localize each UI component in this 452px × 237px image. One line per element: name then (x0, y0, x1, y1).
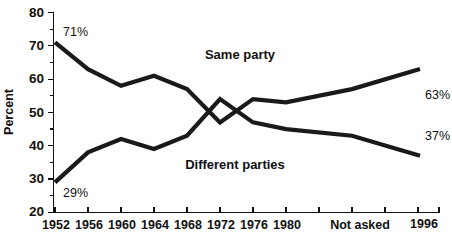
y-label-40: 40 (29, 138, 44, 153)
x-label-1980: 1980 (273, 218, 301, 232)
y-tick-labels-group: 80 70 60 50 40 30 20 (29, 5, 44, 220)
x-label-1960: 1960 (108, 218, 136, 232)
x-label-1976: 1976 (240, 218, 268, 232)
x-tick-marks-group (55, 207, 439, 213)
series-label-same-party: Same party (205, 47, 276, 62)
x-label-1968: 1968 (174, 218, 202, 232)
y-label-70: 70 (29, 38, 44, 53)
y-label-80: 80 (29, 5, 44, 20)
y-axis-title: Percent (2, 88, 16, 135)
y-label-20: 20 (29, 204, 44, 219)
x-label-not-asked: Not asked (330, 218, 390, 232)
y-label-30: 30 (29, 171, 44, 186)
line-chart: 80 70 60 50 40 30 20 Percent 1952 1956 1… (0, 0, 452, 237)
y-tick-marks-group (48, 13, 54, 213)
axes-group (54, 12, 441, 213)
annotation-37-percent: 37% (425, 129, 450, 143)
x-label-1952: 1952 (42, 218, 70, 232)
annotation-71-percent: 71% (63, 25, 88, 39)
series-label-different-parties: Different parties (185, 157, 285, 172)
y-label-50: 50 (29, 105, 44, 120)
chart-container: 80 70 60 50 40 30 20 Percent 1952 1956 1… (0, 0, 452, 237)
x-label-1972: 1972 (207, 218, 235, 232)
x-label-1964: 1964 (141, 218, 169, 232)
x-label-1956: 1956 (75, 218, 103, 232)
annotation-29-percent: 29% (63, 186, 88, 200)
x-label-1996: 1996 (410, 217, 438, 231)
x-tick-labels-group: 1952 1956 1960 1964 1968 1972 1976 1980 … (42, 217, 438, 232)
annotation-63-percent: 63% (425, 88, 450, 102)
y-label-60: 60 (29, 71, 44, 86)
